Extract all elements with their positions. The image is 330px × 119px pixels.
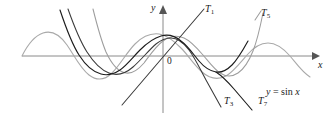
y-axis-label: y [151,3,155,13]
function-label: y = sin x [266,87,300,97]
x-axis-label: x [318,60,322,70]
curve-label-t7: T7 [258,96,267,106]
curve-label-t5-base: T [261,7,267,18]
origin-label: 0 [167,57,172,67]
curve-label-t5-sub: 5 [267,12,271,20]
function-label-sin: sin [281,86,293,97]
curve-label-t1-base: T [205,3,211,14]
function-label-equals: = [270,86,281,97]
curve-label-t7-sub: 7 [264,100,268,108]
curve-label-t3-base: T [224,95,230,106]
curve-label-t3: T3 [224,96,233,106]
plot-canvas [0,0,330,119]
curve-label-t1-sub: 1 [211,8,215,16]
function-label-x: x [293,86,300,97]
curve-taylor-7 [60,10,248,75]
curve-label-t1: T1 [205,4,214,14]
curve-label-t5: T5 [261,8,270,18]
y-axis-arrow-icon [159,5,167,14]
taylor-polynomial-figure: y x 0 T1 T5 T3 T7 y = sin x [0,0,330,119]
curve-taylor-3 [68,9,221,107]
curve-label-t7-base: T [258,95,264,106]
curve-label-t3-sub: 3 [230,100,234,108]
